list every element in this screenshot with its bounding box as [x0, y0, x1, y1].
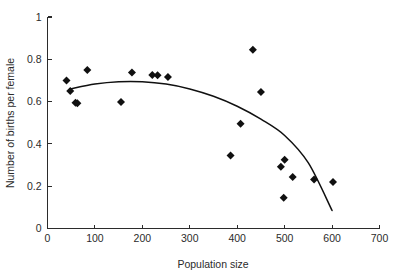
x-tick-label-500: 500 [276, 232, 294, 244]
data-point-group [62, 46, 337, 202]
data-point [249, 46, 257, 54]
x-axis-tick-labels: 0100200300400500600700 [45, 232, 389, 244]
data-point [281, 156, 289, 164]
data-point [280, 194, 288, 202]
y-tick-label-0: 0 [36, 222, 42, 234]
y-tick-label-0.8: 0.8 [27, 53, 42, 65]
data-point [227, 152, 235, 160]
data-point [117, 98, 125, 106]
data-point [83, 66, 91, 74]
data-point [289, 173, 297, 181]
x-tick-label-0: 0 [45, 232, 51, 244]
x-tick-label-300: 300 [181, 232, 199, 244]
x-axis-tick-marks [48, 225, 380, 229]
data-point [237, 120, 245, 128]
x-axis-title: Population size [177, 258, 248, 270]
data-point [154, 71, 162, 79]
x-tick-label-600: 600 [323, 232, 341, 244]
y-axis-tick-labels: 00.20.40.60.81 [27, 11, 42, 235]
data-point [277, 163, 285, 171]
data-point [62, 76, 70, 84]
data-point [128, 68, 136, 76]
chart-canvas: 00.20.40.60.81 0100200300400500600700 Po… [0, 0, 407, 278]
y-tick-label-0.2: 0.2 [27, 180, 42, 192]
x-tick-label-100: 100 [86, 232, 104, 244]
scatter-chart: 00.20.40.60.81 0100200300400500600700 Po… [0, 0, 407, 278]
fit-curve-line [70, 81, 332, 210]
data-point [164, 73, 172, 81]
data-point [310, 175, 318, 183]
y-axis-title: Number of births per female [4, 58, 16, 188]
y-tick-label-0.4: 0.4 [27, 138, 42, 150]
x-tick-label-700: 700 [371, 232, 389, 244]
x-tick-label-400: 400 [228, 232, 246, 244]
x-tick-label-200: 200 [134, 232, 152, 244]
y-axis-tick-marks [48, 17, 52, 229]
y-tick-label-0.6: 0.6 [27, 95, 42, 107]
data-point [329, 178, 337, 186]
data-point [257, 88, 265, 96]
y-tick-label-1: 1 [36, 11, 42, 23]
